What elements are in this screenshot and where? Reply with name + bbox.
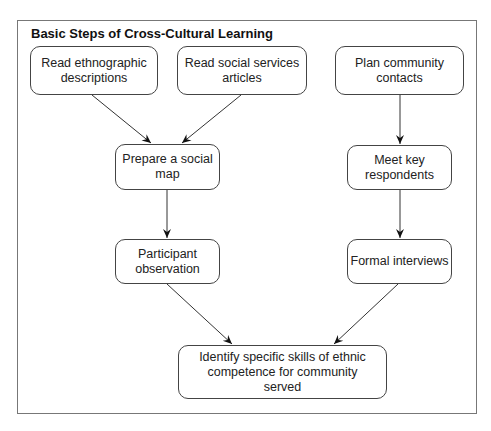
node-plan-community: Plan community contacts — [335, 46, 464, 95]
node-label: Read social services articles — [182, 56, 302, 86]
node-label: Read ethnographic descriptions — [35, 56, 153, 86]
node-meet-key-respondents: Meet key respondents — [347, 145, 452, 190]
node-label: Identify specific skills of ethnic compe… — [197, 350, 368, 395]
node-identify-skills: Identify specific skills of ethnic compe… — [178, 345, 387, 399]
edge-read-ethnographic-to-prepare-social-map — [92, 95, 151, 143]
edge-read-social-services-to-prepare-social-map — [182, 95, 241, 143]
node-read-ethnographic: Read ethnographic descriptions — [30, 46, 158, 95]
node-prepare-social-map: Prepare a social map — [115, 144, 220, 190]
node-participant-observation: Participant observation — [115, 239, 220, 284]
node-label: Meet key respondents — [362, 153, 437, 183]
node-label: Formal interviews — [351, 254, 449, 269]
node-label: Prepare a social map — [120, 152, 215, 182]
edge-formal-interviews-to-identify-skills — [334, 284, 398, 344]
edge-participant-observation-to-identify-skills — [167, 284, 232, 344]
node-formal-interviews: Formal interviews — [347, 239, 452, 284]
node-read-social-services: Read social services articles — [177, 46, 307, 95]
node-label: Plan community contacts — [354, 56, 445, 86]
node-label: Participant observation — [126, 247, 209, 277]
